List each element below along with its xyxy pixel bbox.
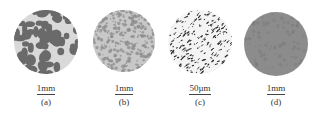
texture-mark bbox=[136, 61, 137, 62]
texture-mark bbox=[139, 31, 140, 32]
texture-mark bbox=[128, 16, 130, 18]
panel-label-c: (c) bbox=[160, 98, 240, 107]
texture-mark bbox=[149, 13, 152, 16]
texture-mark bbox=[137, 48, 139, 50]
texture-mark bbox=[114, 13, 116, 15]
texture-mark bbox=[44, 70, 53, 81]
texture-mark bbox=[113, 27, 115, 29]
texture-mark bbox=[93, 65, 94, 66]
texture-mark bbox=[142, 35, 144, 37]
texture-mark bbox=[101, 29, 103, 31]
texture-mark bbox=[101, 15, 103, 17]
texture-mark bbox=[247, 19, 250, 22]
texture-mark bbox=[93, 41, 96, 44]
texture-mark bbox=[97, 11, 100, 14]
texture-mark bbox=[281, 16, 283, 18]
texture-mark bbox=[171, 58, 172, 59]
texture-mark bbox=[133, 8, 135, 10]
texture-mark bbox=[148, 38, 150, 40]
texture-mark bbox=[253, 17, 255, 19]
texture-mark bbox=[254, 24, 256, 26]
texture-mark bbox=[97, 30, 99, 32]
texture-mark bbox=[151, 40, 154, 43]
texture-mark bbox=[118, 30, 119, 31]
texture-mark bbox=[93, 55, 95, 57]
texture-mark bbox=[104, 26, 106, 28]
texture-mark bbox=[144, 51, 145, 52]
texture-mark bbox=[283, 59, 284, 60]
texture-mark bbox=[92, 61, 95, 64]
texture-mark bbox=[288, 32, 289, 33]
texture-mark bbox=[278, 54, 282, 58]
texture-mark bbox=[114, 24, 116, 26]
texture-mark bbox=[123, 41, 125, 43]
texture-mark bbox=[147, 34, 149, 36]
texture-mark bbox=[91, 55, 94, 58]
scale-bar-b-text: 1mm bbox=[115, 84, 134, 95]
texture-mark bbox=[249, 43, 251, 45]
texture-mark bbox=[270, 45, 272, 47]
texture-mark bbox=[98, 19, 100, 21]
texture-mark bbox=[281, 42, 284, 45]
texture-mark bbox=[148, 47, 150, 49]
texture-mark bbox=[133, 14, 137, 18]
texture-mark bbox=[134, 26, 137, 29]
texture-mark bbox=[305, 66, 306, 67]
texture-mark bbox=[126, 65, 128, 67]
texture-mark bbox=[207, 30, 208, 31]
texture-mark bbox=[52, 15, 62, 21]
texture-mark bbox=[92, 21, 93, 22]
texture-mark bbox=[95, 54, 97, 56]
texture-mark bbox=[118, 58, 121, 61]
texture-mark bbox=[252, 74, 253, 75]
texture-mark bbox=[143, 14, 144, 15]
micrograph-d bbox=[236, 0, 316, 84]
texture-mark bbox=[115, 45, 117, 47]
texture-mark bbox=[265, 23, 268, 26]
texture-mark bbox=[142, 12, 144, 14]
texture-mark bbox=[292, 36, 293, 37]
texture-mark bbox=[108, 59, 111, 62]
texture-mark bbox=[223, 69, 225, 72]
texture-mark bbox=[153, 27, 154, 28]
texture-mark bbox=[107, 41, 109, 43]
texture-mark bbox=[193, 24, 194, 25]
texture-mark bbox=[300, 60, 301, 61]
texture-mark bbox=[37, 43, 48, 49]
texture-mark bbox=[181, 40, 183, 41]
texture-mark bbox=[127, 28, 131, 32]
texture-mark bbox=[143, 70, 146, 73]
texture-mark bbox=[144, 27, 147, 30]
texture-mark bbox=[272, 66, 274, 68]
scale-bar-a-text: 1mm bbox=[37, 84, 56, 95]
texture-mark bbox=[223, 32, 226, 33]
texture-mark bbox=[294, 63, 298, 67]
texture-mark bbox=[306, 16, 308, 18]
texture-mark bbox=[230, 25, 233, 26]
texture-mark bbox=[296, 72, 299, 75]
texture-mark bbox=[145, 7, 148, 10]
texture-mark bbox=[291, 24, 294, 27]
texture-mark bbox=[125, 62, 127, 64]
texture-mark bbox=[215, 72, 216, 73]
texture-mark bbox=[257, 35, 260, 38]
texture-mark bbox=[257, 16, 258, 17]
texture-mark bbox=[151, 29, 154, 32]
texture-mark bbox=[257, 31, 260, 34]
texture-mark bbox=[186, 54, 189, 55]
texture-mark bbox=[123, 64, 125, 66]
texture-mark bbox=[179, 35, 181, 36]
texture-mark bbox=[141, 64, 143, 66]
texture-mark bbox=[282, 27, 284, 29]
texture-mark bbox=[263, 57, 267, 61]
texture-mark bbox=[230, 24, 232, 25]
texture-mark bbox=[286, 21, 289, 24]
texture-mark bbox=[231, 20, 233, 22]
texture-mark bbox=[95, 12, 97, 14]
texture-mark bbox=[102, 46, 105, 49]
texture-mark bbox=[91, 44, 94, 47]
panel-label-d: (d) bbox=[236, 98, 316, 107]
texture-mark bbox=[175, 16, 177, 18]
texture-mark bbox=[228, 61, 229, 62]
texture-mark bbox=[258, 49, 262, 53]
